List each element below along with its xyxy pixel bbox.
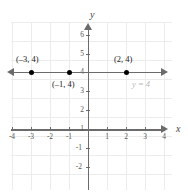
x-tick-mark [164, 127, 165, 131]
x-tick-label: -4 [5, 133, 19, 141]
x-tick-mark [107, 127, 108, 131]
y-tick-mark [86, 148, 90, 149]
x-tick-label: 4 [157, 133, 171, 141]
coordinate-grid [11, 22, 172, 190]
data-point-label: (2, 4) [114, 55, 132, 64]
x-tick-mark [69, 127, 70, 131]
data-point [29, 70, 34, 75]
data-point-label: (–3, 4) [16, 55, 39, 64]
y-tick-label: 3 [74, 87, 84, 95]
data-point [124, 70, 129, 75]
line-y-equals-4 [13, 72, 163, 74]
x-axis-label: x [176, 124, 180, 134]
x-tick-label: -2 [43, 133, 57, 141]
y-axis-label: y [90, 10, 94, 20]
graph-figure: x y -4 -3 -2 -1 1 2 3 4 6 5 4 3 2 1 -1 -… [0, 0, 188, 195]
y-tick-label: 1 [74, 125, 84, 133]
line-arrow-right-icon [161, 68, 168, 76]
y-tick-mark [86, 91, 90, 92]
y-tick-mark [86, 110, 90, 111]
x-tick-label: 2 [119, 133, 133, 141]
x-tick-label: -1 [62, 133, 76, 141]
x-tick-label: 3 [138, 133, 152, 141]
x-tick-mark [145, 127, 146, 131]
y-axis-line [88, 28, 90, 190]
x-tick-mark [31, 127, 32, 131]
x-tick-mark [50, 127, 51, 131]
x-tick-mark [126, 127, 127, 131]
y-tick-label: -2 [72, 163, 82, 171]
y-tick-mark [86, 35, 90, 36]
y-axis-arrow-icon [84, 23, 92, 30]
y-tick-label: 2 [74, 106, 84, 114]
data-point [67, 70, 72, 75]
line-arrow-left-icon [7, 68, 14, 76]
y-tick-mark [86, 54, 90, 55]
x-tick-mark [12, 127, 13, 131]
y-tick-label: 5 [74, 50, 84, 58]
y-tick-label: -1 [72, 144, 82, 152]
x-tick-label: -3 [24, 133, 38, 141]
line-equation-label: y = 4 [132, 80, 150, 89]
data-point-label: (–1, 4) [52, 80, 75, 89]
x-tick-label: 1 [100, 133, 114, 141]
y-tick-mark [86, 167, 90, 168]
y-tick-label: 6 [74, 31, 84, 39]
